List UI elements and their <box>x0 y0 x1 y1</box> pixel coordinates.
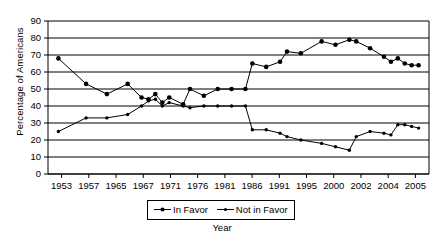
data-point <box>216 104 219 107</box>
data-point <box>389 60 394 65</box>
data-point <box>320 142 323 145</box>
data-point <box>334 145 337 148</box>
data-point <box>229 87 234 92</box>
data-point <box>154 98 157 101</box>
data-point <box>153 92 158 97</box>
legend-label-in-favor: In Favor <box>173 204 208 215</box>
data-point <box>368 130 371 133</box>
data-point <box>417 126 420 129</box>
data-point <box>319 39 324 44</box>
data-point <box>285 49 290 54</box>
data-point <box>251 128 254 131</box>
data-point <box>278 60 283 65</box>
data-point <box>299 51 304 56</box>
data-point <box>250 61 255 66</box>
data-point <box>161 104 164 107</box>
data-point <box>125 82 130 87</box>
data-point <box>333 43 338 48</box>
data-point <box>354 39 359 44</box>
data-point <box>382 54 387 59</box>
legend-marker-not-in-favor-icon <box>217 205 234 214</box>
data-point <box>396 56 401 61</box>
data-point <box>402 61 407 66</box>
data-point <box>188 106 191 109</box>
data-point <box>139 95 144 100</box>
legend-item-not-in-favor: Not in Favor <box>217 204 288 215</box>
data-point <box>84 82 89 87</box>
data-point <box>57 130 60 133</box>
data-point <box>382 132 385 135</box>
chart-legend: In Favor Not in Favor <box>147 200 295 220</box>
data-point <box>105 92 110 97</box>
data-point <box>181 104 184 107</box>
data-point <box>215 87 220 92</box>
data-point <box>389 133 392 136</box>
data-point <box>56 56 61 61</box>
legend-label-not-in-favor: Not in Favor <box>236 204 288 215</box>
data-point <box>265 128 268 131</box>
data-point <box>105 116 108 119</box>
data-point <box>347 37 352 42</box>
data-point <box>348 149 351 152</box>
data-point <box>202 94 207 99</box>
data-point <box>140 104 143 107</box>
data-point <box>396 123 399 126</box>
data-point <box>167 95 172 100</box>
legend-marker-in-favor-icon <box>154 205 171 214</box>
data-point <box>299 138 302 141</box>
x-axis-title: Year <box>0 222 444 233</box>
data-point <box>410 125 413 128</box>
data-point <box>202 104 205 107</box>
line-chart: Percentage of Americans 0102030405060708… <box>0 0 444 243</box>
data-point <box>244 104 247 107</box>
data-point <box>84 116 87 119</box>
data-point <box>243 87 248 92</box>
data-point <box>409 63 414 68</box>
data-point <box>403 123 406 126</box>
data-point <box>188 87 193 92</box>
data-point <box>230 104 233 107</box>
series-line <box>58 99 418 150</box>
data-point <box>126 113 129 116</box>
data-point <box>285 135 288 138</box>
data-point <box>264 65 269 70</box>
data-point <box>278 132 281 135</box>
data-point <box>416 63 421 68</box>
data-point <box>168 101 171 104</box>
data-point <box>147 99 150 102</box>
data-point <box>355 135 358 138</box>
legend-item-in-favor: In Favor <box>154 204 208 215</box>
data-point <box>368 46 373 51</box>
